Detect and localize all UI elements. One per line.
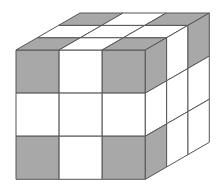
front-face-cell [59,50,102,93]
front-face-cell [16,136,59,179]
front-face-cell [16,93,59,136]
front-face-cell [102,50,145,93]
cube-figure [0,0,222,193]
front-face-cell [16,50,59,93]
front-face-cell [102,136,145,179]
front-face-cell [59,93,102,136]
cube-diagram [0,0,222,193]
front-face-cell [59,136,102,179]
front-face-cell [102,93,145,136]
